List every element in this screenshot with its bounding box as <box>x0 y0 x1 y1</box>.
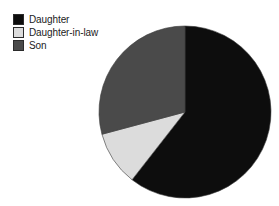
legend-swatch-daughter-in-law <box>13 27 24 38</box>
legend-label-daughter: Daughter <box>29 14 69 25</box>
legend-label-daughter-in-law: Daughter-in-law <box>29 27 98 38</box>
legend-item-daughter: Daughter <box>13 13 98 25</box>
pie-slice-group <box>99 26 271 198</box>
legend-swatch-daughter <box>13 14 24 25</box>
legend-item-son: Son <box>13 39 98 51</box>
legend: Daughter Daughter-in-law Son <box>13 13 98 52</box>
legend-item-daughter-in-law: Daughter-in-law <box>13 26 98 38</box>
legend-swatch-son <box>13 40 24 51</box>
legend-label-son: Son <box>29 40 47 51</box>
pie-chart-figure: Daughter Daughter-in-law Son <box>0 0 279 206</box>
